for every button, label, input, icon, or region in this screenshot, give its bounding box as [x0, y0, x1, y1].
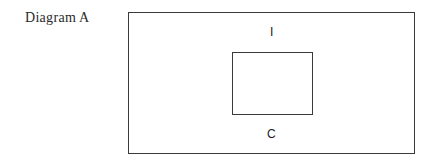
diagram-caption: Diagram A [25, 10, 90, 26]
inner-rectangle [232, 52, 313, 115]
inner-label: C [267, 128, 276, 140]
outer-label: I [270, 26, 273, 38]
